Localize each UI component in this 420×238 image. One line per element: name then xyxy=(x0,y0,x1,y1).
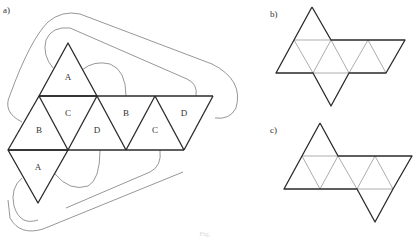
figure-canvas: a) xyxy=(0,0,420,238)
left-loop-arc xyxy=(8,95,22,122)
octahedron-net-a xyxy=(8,43,213,203)
figure-caption: Fig. xyxy=(199,230,210,238)
face-label: C xyxy=(152,125,158,135)
face-label: A xyxy=(65,72,72,82)
net-c-outline xyxy=(284,123,412,222)
face-label: D xyxy=(94,125,101,135)
panel-c-label: c) xyxy=(270,125,277,135)
face-label: D xyxy=(181,108,188,118)
panel-b-label: b) xyxy=(270,9,278,19)
panel-b: b) xyxy=(270,7,405,106)
net-b-outline xyxy=(276,7,405,106)
panel-c: c) xyxy=(270,123,412,222)
arc-c-bottom xyxy=(66,150,160,208)
arc-a-left-lower xyxy=(13,178,38,221)
face-label: B xyxy=(36,125,42,135)
gluing-arcs xyxy=(8,13,238,231)
face-label: A xyxy=(35,162,42,172)
face-label: B xyxy=(123,108,129,118)
face-label: C xyxy=(65,108,71,118)
face-a-bottom xyxy=(8,150,68,203)
face-a-top xyxy=(39,43,97,96)
outer-loop-arc xyxy=(8,13,238,231)
inner-loop-arc xyxy=(45,28,196,96)
arc-a-d-lower xyxy=(55,150,100,188)
panel-a: a) xyxy=(3,5,238,231)
panel-a-label: a) xyxy=(3,5,10,15)
